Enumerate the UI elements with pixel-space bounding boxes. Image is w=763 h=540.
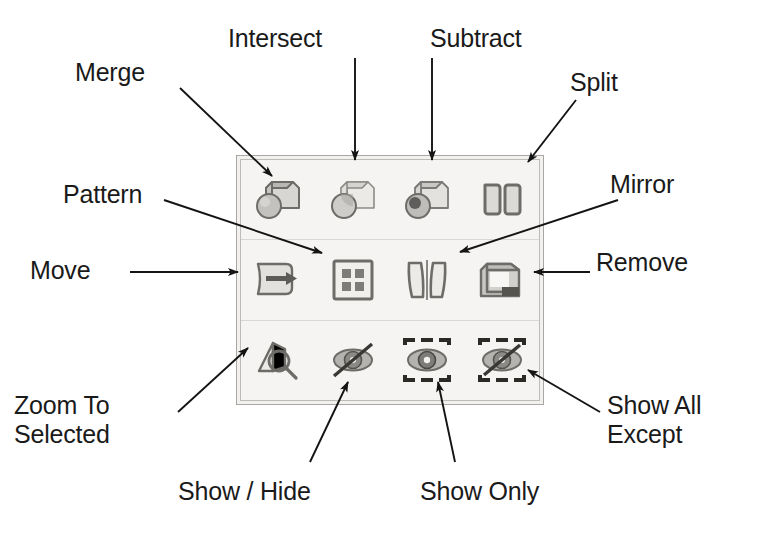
toolbar-button-split[interactable]: [474, 172, 530, 228]
callout-label-intersect: Intersect: [228, 24, 322, 53]
mirror-icon: [403, 258, 451, 302]
toolbar-row-boolean: [241, 160, 539, 240]
leader-split: [528, 100, 576, 162]
merge-icon: [253, 177, 303, 223]
toolbar-button-mirror[interactable]: [399, 252, 455, 308]
toolbar-button-show-all-except[interactable]: [474, 332, 530, 388]
remove-icon: [477, 258, 527, 302]
callout-label-show-all-except: Show All Except: [607, 391, 701, 449]
callout-label-move: Move: [30, 256, 90, 285]
toolbar-button-pattern[interactable]: [325, 252, 381, 308]
toolbar-button-show-hide[interactable]: [325, 332, 381, 388]
toolbar-button-subtract[interactable]: [399, 172, 455, 228]
show-only-eye-icon: [401, 337, 453, 383]
toolbar-button-show-only[interactable]: [399, 332, 455, 388]
callout-label-subtract: Subtract: [430, 24, 522, 53]
toolbar-row-visibility: [241, 321, 539, 400]
show-all-except-eye-icon: [476, 337, 528, 383]
toolbar-button-intersect[interactable]: [325, 172, 381, 228]
callout-label-split: Split: [570, 68, 618, 97]
toolbar-row-edit: [241, 240, 539, 320]
callout-label-mirror: Mirror: [610, 170, 674, 199]
intersect-icon: [328, 177, 378, 223]
callout-label-merge: Merge: [75, 58, 145, 87]
toolbar-button-remove[interactable]: [474, 252, 530, 308]
subtract-icon: [402, 177, 452, 223]
callout-label-show-hide: Show / Hide: [178, 477, 311, 506]
toolbar-button-zoom-to-selected[interactable]: [250, 332, 306, 388]
callout-label-remove: Remove: [596, 248, 688, 277]
figure-canvas: Merge Intersect Subtract Split Pattern M…: [0, 0, 763, 540]
toolbar-panel: [236, 155, 544, 405]
callout-label-show-only: Show Only: [420, 477, 539, 506]
toolbar-button-move[interactable]: [250, 252, 306, 308]
toolbar-button-merge[interactable]: [250, 172, 306, 228]
show-hide-eye-icon: [328, 340, 378, 380]
callout-label-pattern: Pattern: [63, 180, 142, 209]
split-icon: [477, 177, 527, 223]
zoom-to-selected-icon: [253, 337, 303, 383]
move-icon: [252, 258, 304, 302]
callout-label-zoom-to-selected: Zoom To Selected: [14, 391, 110, 449]
pattern-icon: [330, 258, 376, 302]
toolbar-panel-inner: [240, 159, 540, 401]
